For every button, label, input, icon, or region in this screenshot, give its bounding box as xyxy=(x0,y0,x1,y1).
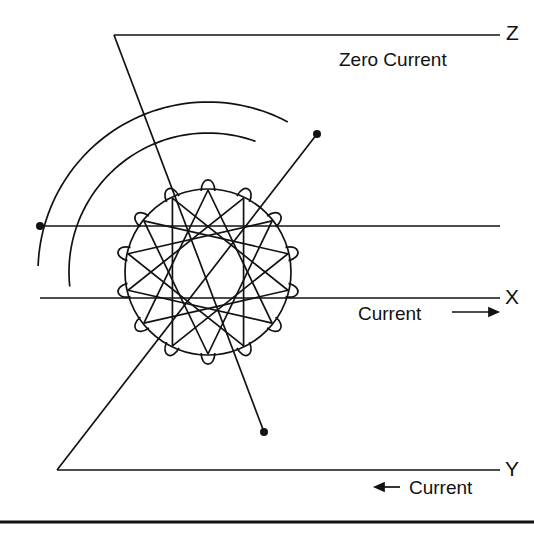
coil-loop xyxy=(135,317,149,331)
coil-chord xyxy=(128,198,244,290)
current-arrows-group xyxy=(375,308,498,491)
lead-lines-group xyxy=(40,35,500,470)
lead-z xyxy=(114,35,264,432)
coil-loop xyxy=(267,213,281,227)
diagram-svg xyxy=(0,0,534,539)
figure-canvas: Z X Y Zero Current Current Current xyxy=(0,0,534,539)
axis-lines-group xyxy=(40,35,500,470)
axis-label-z: Z xyxy=(506,22,519,43)
coil-loop xyxy=(135,213,149,227)
annotation-current-x: Current xyxy=(358,304,421,323)
coil-loop xyxy=(267,317,281,331)
axis-label-x: X xyxy=(505,286,519,307)
annotation-current-y: Current xyxy=(409,478,472,497)
lead-y xyxy=(57,134,317,470)
current-arrowhead-left xyxy=(375,483,384,491)
axis-label-y: Y xyxy=(505,458,519,479)
coil-chord xyxy=(128,290,272,323)
coil-group xyxy=(118,180,298,364)
annotation-zero-current: Zero Current xyxy=(339,50,447,69)
outer-arc xyxy=(38,102,288,266)
terminal-left xyxy=(36,222,44,230)
current-arrowhead-right xyxy=(489,308,498,316)
terminal-lower-right xyxy=(260,428,268,436)
coil-chord xyxy=(172,198,288,290)
terminal-upper-right xyxy=(313,130,321,138)
